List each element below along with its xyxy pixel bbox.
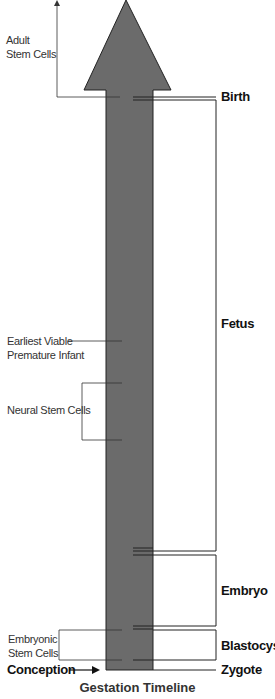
embryonic-line2: Stem Cells [8, 646, 58, 660]
embryonic-stem-cells-label: Embryonic Stem Cells [8, 632, 58, 660]
earliest-viable-line2: Premature Infant [7, 348, 84, 362]
conception-label: Conception [7, 662, 76, 677]
arrowhead-up-icon [54, 0, 60, 6]
adult-stem-cells-label: Adult Stem Cells [6, 33, 56, 61]
stage-birth: Birth [221, 89, 250, 104]
embryonic-line1: Embryonic [8, 632, 58, 646]
arrow-right-icon [92, 666, 100, 674]
stage-fetus: Fetus [221, 316, 254, 331]
earliest-viable-label: Earliest Viable Premature Infant [7, 334, 84, 362]
earliest-viable-line1: Earliest Viable [7, 334, 84, 348]
stage-blastocyst: Blastocyst [221, 638, 275, 653]
diagram-title: Gestation Timeline [0, 680, 275, 695]
stage-zygote: Zygote [221, 662, 262, 677]
stage-embryo: Embryo [221, 583, 268, 598]
adult-stem-cells-line1: Adult [6, 33, 56, 47]
adult-stem-cells-line2: Stem Cells [6, 47, 56, 61]
neural-stem-cells-label: Neural Stem Cells [7, 403, 91, 417]
